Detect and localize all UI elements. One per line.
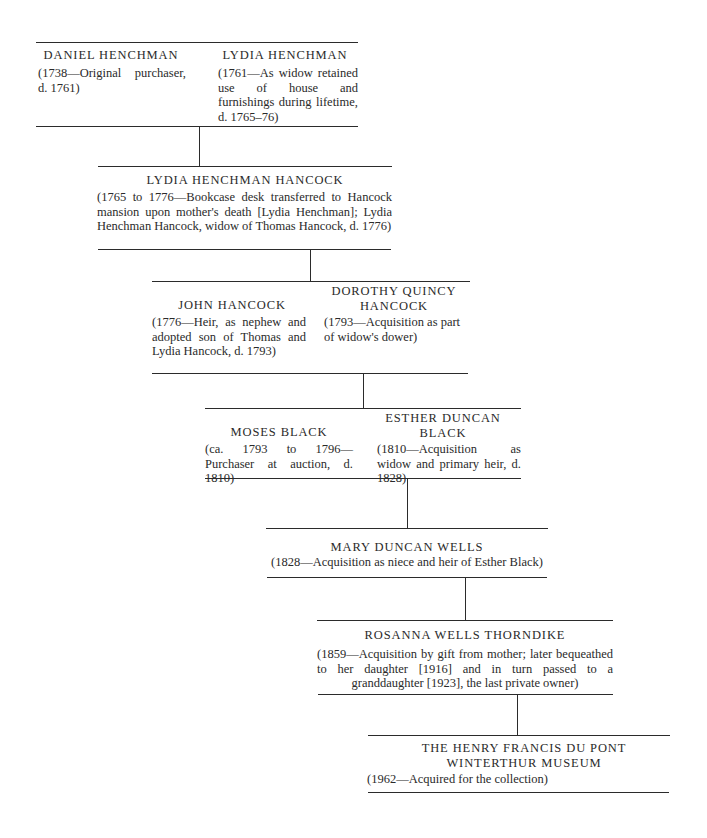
owner-name-winterthur-museum: THE HENRY FRANCIS DU PONT WINTERTHUR MUS… bbox=[410, 741, 638, 771]
connector-gen4-gen5 bbox=[465, 577, 466, 620]
rule-gen6-bottom bbox=[368, 792, 669, 793]
owner-name-esther-duncan-black: ESTHER DUNCAN BLACK bbox=[368, 411, 518, 441]
rule-gen3-top bbox=[205, 408, 521, 409]
connector-gen2-gen3 bbox=[363, 373, 364, 408]
connector-gen5-gen6 bbox=[517, 694, 518, 735]
rule-gen4-bottom bbox=[267, 577, 547, 578]
rule-gen2-top bbox=[152, 281, 470, 282]
rule-gen0-bottom bbox=[36, 126, 358, 127]
owner-note-rosanna-wells-thorndike: (1859—Acquisition by gift from mother; l… bbox=[317, 647, 613, 691]
rule-gen0-top bbox=[36, 42, 358, 43]
connector-gen0-gen1 bbox=[199, 126, 200, 166]
owner-note-lydia-henchman-hancock: (1765 to 1776—Bookcase desk transferred … bbox=[97, 190, 392, 234]
owner-name-mary-duncan-wells: MARY DUNCAN WELLS bbox=[262, 540, 552, 555]
owner-note-mary-duncan-wells: (1828—Acquisition as niece and heir of E… bbox=[258, 555, 556, 570]
rule-gen1-bottom bbox=[98, 249, 391, 250]
connector-gen1-gen2 bbox=[310, 249, 311, 281]
owner-note-dorothy-quincy-hancock: (1793—Acquisition as part of widow's dow… bbox=[324, 315, 470, 344]
owner-note-john-hancock: (1776—Heir, as nephew and adopted son of… bbox=[152, 315, 306, 359]
rule-gen5-bottom bbox=[318, 694, 613, 695]
owner-name-daniel-henchman: DANIEL HENCHMAN bbox=[36, 48, 186, 63]
rule-gen3-bottom bbox=[205, 478, 521, 479]
owner-name-john-hancock: JOHN HANCOCK bbox=[160, 298, 304, 313]
connector-gen3-gen4 bbox=[407, 478, 408, 528]
owner-name-rosanna-wells-thorndike: ROSANNA WELLS THORNDIKE bbox=[317, 628, 613, 643]
owner-note-lydia-henchman: (1761—As widow retained use of house and… bbox=[218, 66, 358, 124]
rule-gen4-top bbox=[266, 528, 548, 529]
owner-name-lydia-henchman: LYDIA HENCHMAN bbox=[212, 48, 358, 63]
owner-note-winterthur-museum: (1962—Acquired for the collection) bbox=[367, 772, 667, 787]
rule-gen2-bottom bbox=[152, 373, 468, 374]
rule-gen1-top bbox=[98, 166, 392, 167]
owner-name-lydia-henchman-hancock: LYDIA HENCHMAN HANCOCK bbox=[98, 173, 392, 188]
rule-gen6-top bbox=[368, 735, 670, 736]
owner-note-daniel-henchman: (1738—Original purchaser, d. 1761) bbox=[38, 66, 186, 95]
rule-gen5-top bbox=[317, 620, 613, 621]
owner-name-moses-black: MOSES BLACK bbox=[205, 425, 353, 440]
owner-name-dorothy-quincy-hancock: DOROTHY QUINCY HANCOCK bbox=[320, 284, 468, 314]
